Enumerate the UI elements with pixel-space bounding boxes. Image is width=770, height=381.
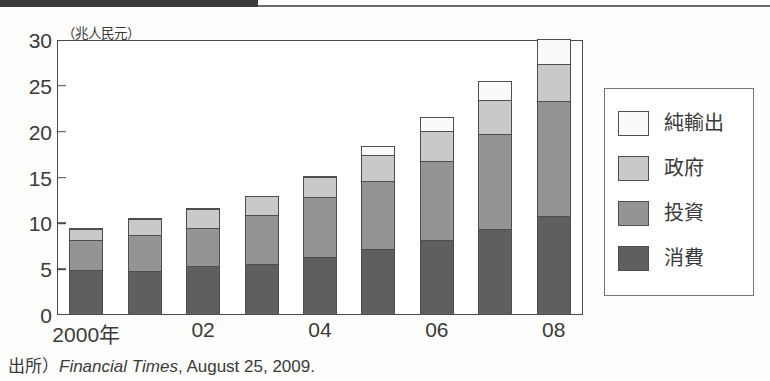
source-note: 出所）Financial Times, August 25, 2009.	[8, 352, 315, 377]
legend-label-government: 政府	[664, 158, 704, 178]
bar-segment-consumption[interactable]	[420, 240, 454, 315]
bar-2008[interactable]	[537, 39, 571, 315]
y-axis-tick-label: 20	[8, 121, 52, 142]
bar-segment-investment[interactable]	[128, 235, 162, 271]
bar-2001[interactable]	[128, 218, 162, 315]
bar-segment-net-exports[interactable]	[478, 81, 512, 99]
bar-segment-consumption[interactable]	[69, 270, 103, 315]
bar-2003[interactable]	[245, 196, 279, 315]
legend-item-investment[interactable]: 投資	[618, 197, 704, 229]
y-axis-tick-label: 15	[8, 167, 52, 188]
bar-segment-investment[interactable]	[303, 197, 337, 258]
x-axis-tick-label: 02	[191, 318, 214, 342]
y-axis-tick-mark	[57, 177, 66, 179]
y-axis-tick-label: 0	[8, 305, 52, 326]
legend-label-net-exports: 純輸出	[664, 113, 724, 133]
bar-2005[interactable]	[361, 146, 395, 315]
y-axis-tick-label: 5	[8, 259, 52, 280]
bar-2007[interactable]	[478, 81, 512, 315]
bar-segment-government[interactable]	[361, 155, 395, 182]
bar-segment-government[interactable]	[537, 64, 571, 101]
legend-swatch-consumption	[618, 246, 649, 271]
y-axis-tick-labels: 051015202530	[0, 0, 52, 381]
bar-segment-government[interactable]	[186, 209, 220, 228]
stacked-bar-chart-figure: （兆人民元） 051015202530 2000年02040608 純輸出政府投…	[0, 0, 770, 381]
y-axis-tick-mark	[57, 85, 66, 87]
bar-segment-consumption[interactable]	[303, 257, 337, 315]
legend-swatch-investment	[618, 201, 649, 226]
y-axis-tick-mark	[57, 131, 66, 133]
bar-segment-investment[interactable]	[186, 228, 220, 266]
legend-item-consumption[interactable]: 消費	[618, 242, 704, 274]
bar-segment-government[interactable]	[420, 131, 454, 161]
bar-segment-consumption[interactable]	[186, 266, 220, 316]
bar-segment-consumption[interactable]	[537, 216, 571, 315]
legend-label-consumption: 消費	[664, 248, 704, 268]
x-axis-tick-labels: 2000年02040608	[57, 318, 583, 352]
bar-2006[interactable]	[420, 117, 454, 315]
y-axis-unit-label: （兆人民元）	[62, 22, 140, 42]
bar-segment-consumption[interactable]	[478, 229, 512, 315]
y-axis-tick-label: 30	[8, 30, 52, 51]
bar-segment-consumption[interactable]	[128, 271, 162, 315]
legend-label-investment: 投資	[664, 203, 704, 223]
bar-2000[interactable]	[69, 228, 103, 315]
bar-2002[interactable]	[186, 208, 220, 315]
x-axis-tick-label: 08	[542, 318, 565, 342]
x-axis-tick-label: 2000年	[52, 318, 120, 348]
chart-legend: 純輸出政府投資消費	[604, 88, 754, 296]
y-axis-tick-label: 25	[8, 75, 52, 96]
x-axis-tick-label: 04	[308, 318, 331, 342]
bar-segment-net-exports[interactable]	[361, 146, 395, 154]
legend-swatch-net-exports	[618, 111, 649, 136]
source-prefix: 出所）	[8, 357, 59, 376]
source-publication: Financial Times	[59, 357, 178, 376]
bar-segment-investment[interactable]	[245, 215, 279, 264]
bar-segment-investment[interactable]	[537, 101, 571, 217]
legend-item-government[interactable]: 政府	[618, 152, 704, 184]
x-axis-tick-label: 06	[425, 318, 448, 342]
bar-segment-net-exports[interactable]	[537, 39, 571, 64]
bar-segment-consumption[interactable]	[245, 264, 279, 315]
bar-segment-net-exports[interactable]	[420, 117, 454, 131]
y-axis-tick-label: 10	[8, 213, 52, 234]
y-axis-tick-mark	[57, 223, 66, 225]
y-axis-tick-mark	[57, 268, 66, 270]
bar-segment-government[interactable]	[303, 177, 337, 197]
bar-segment-government[interactable]	[478, 100, 512, 135]
bar-segment-investment[interactable]	[420, 161, 454, 240]
bar-segment-investment[interactable]	[361, 181, 395, 249]
bar-segment-consumption[interactable]	[361, 249, 395, 315]
source-date: , August 25, 2009.	[178, 357, 315, 376]
bar-segment-government[interactable]	[69, 229, 103, 240]
legend-swatch-government	[618, 156, 649, 181]
bar-series-group	[57, 40, 583, 315]
bar-segment-investment[interactable]	[69, 240, 103, 270]
bar-2004[interactable]	[303, 176, 337, 315]
bar-segment-government[interactable]	[128, 219, 162, 236]
legend-item-net-exports[interactable]: 純輸出	[618, 107, 724, 139]
bar-segment-investment[interactable]	[478, 134, 512, 228]
bar-segment-government[interactable]	[245, 196, 279, 215]
